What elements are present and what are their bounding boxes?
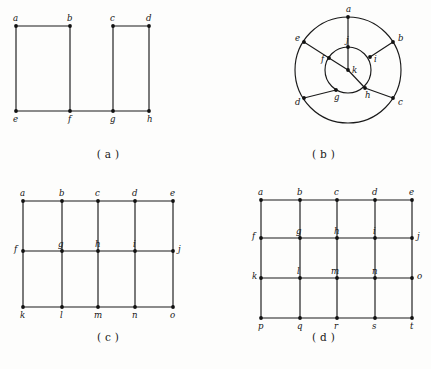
graph-d-canvas: abcdefghijklmnopqrst bbox=[216, 180, 431, 325]
vertex-o bbox=[171, 305, 175, 309]
vertex-g bbox=[60, 249, 64, 253]
vertex-label-a: a bbox=[346, 4, 351, 14]
vertex-label-c: c bbox=[95, 188, 100, 198]
vertex-label-n: n bbox=[372, 266, 378, 276]
vertex-a bbox=[259, 198, 263, 202]
graph-a-canvas: abcdefgh bbox=[0, 0, 216, 140]
vertex-f bbox=[327, 56, 331, 60]
vertex-f bbox=[68, 109, 72, 113]
vertex-q bbox=[298, 316, 302, 320]
vertex-label-p: p bbox=[258, 321, 264, 331]
vertex-h bbox=[147, 109, 151, 113]
vertex-a bbox=[14, 24, 18, 28]
vertex-label-f: f bbox=[13, 244, 19, 254]
vertex-f bbox=[21, 249, 25, 253]
vertex-n bbox=[373, 276, 377, 280]
vertex-d bbox=[147, 24, 151, 28]
vertex-b bbox=[68, 24, 72, 28]
vertex-label-e: e bbox=[170, 188, 175, 198]
vertex-label-g: g bbox=[334, 92, 340, 102]
vertex-label-m: m bbox=[331, 266, 339, 276]
vertex-g bbox=[111, 109, 115, 113]
vertex-label-c: c bbox=[110, 13, 115, 23]
vertex-d bbox=[373, 198, 377, 202]
graph-panel-b: abcdefghijk bbox=[216, 0, 431, 140]
vertex-k bbox=[21, 305, 25, 309]
vertex-a bbox=[21, 199, 25, 203]
vertex-k bbox=[346, 68, 350, 72]
edge-ef bbox=[304, 42, 329, 58]
vertex-c bbox=[96, 199, 100, 203]
vertex-label-h: h bbox=[365, 90, 371, 100]
vertex-label-t: t bbox=[410, 321, 414, 331]
vertex-g bbox=[298, 236, 302, 240]
vertex-label-b: b bbox=[398, 33, 404, 43]
caption-a: ( a ) bbox=[0, 148, 216, 160]
vertex-m bbox=[335, 276, 339, 280]
vertex-label-c: c bbox=[398, 97, 403, 107]
vertex-j bbox=[171, 249, 175, 253]
vertex-j bbox=[346, 45, 350, 49]
vertex-label-n: n bbox=[132, 310, 138, 320]
vertex-l bbox=[298, 276, 302, 280]
vertex-label-i: i bbox=[133, 239, 136, 249]
vertex-label-j: j bbox=[344, 35, 349, 45]
vertex-t bbox=[410, 316, 414, 320]
vertex-label-j: j bbox=[415, 231, 420, 241]
vertex-i bbox=[368, 55, 372, 59]
vertex-label-l: l bbox=[297, 266, 300, 276]
vertex-label-e: e bbox=[295, 33, 300, 43]
vertex-e bbox=[171, 199, 175, 203]
vertex-label-o: o bbox=[170, 310, 175, 320]
vertex-label-g: g bbox=[296, 226, 302, 236]
vertex-label-c: c bbox=[334, 187, 339, 197]
vertex-label-d: d bbox=[295, 97, 301, 107]
vertex-e bbox=[14, 109, 18, 113]
vertex-s bbox=[373, 316, 377, 320]
vertex-label-d: d bbox=[132, 188, 138, 198]
vertex-f bbox=[259, 236, 263, 240]
vertex-c bbox=[335, 198, 339, 202]
vertex-label-i: i bbox=[374, 54, 377, 64]
vertex-m bbox=[96, 305, 100, 309]
vertex-l bbox=[60, 305, 64, 309]
vertex-h bbox=[335, 236, 339, 240]
vertex-b bbox=[298, 198, 302, 202]
caption-d: ( d ) bbox=[216, 331, 431, 343]
vertex-d bbox=[302, 96, 306, 100]
vertex-label-j: j bbox=[176, 244, 181, 254]
vertex-label-k: k bbox=[352, 65, 357, 75]
figure-page: abcdefgh abcdefghijk abcdefghijklmno abc… bbox=[0, 0, 431, 369]
graph-panel-a: abcdefgh bbox=[0, 0, 216, 140]
vertex-label-b: b bbox=[67, 13, 73, 23]
vertex-k bbox=[259, 276, 263, 280]
vertex-label-h: h bbox=[334, 226, 340, 236]
vertex-e bbox=[410, 198, 414, 202]
vertex-label-b: b bbox=[59, 188, 65, 198]
caption-b: ( b ) bbox=[216, 148, 431, 160]
graph-c-canvas: abcdefghijklmno bbox=[0, 180, 216, 325]
vertex-label-h: h bbox=[147, 114, 153, 124]
vertex-label-k: k bbox=[252, 271, 257, 281]
vertex-label-f: f bbox=[67, 114, 73, 124]
vertex-label-e: e bbox=[13, 114, 18, 124]
vertex-label-q: q bbox=[297, 321, 303, 331]
vertex-label-d: d bbox=[146, 13, 152, 23]
vertex-p bbox=[259, 316, 263, 320]
vertex-i bbox=[373, 236, 377, 240]
vertex-label-a: a bbox=[13, 13, 18, 23]
vertex-label-g: g bbox=[110, 114, 116, 124]
vertex-label-a: a bbox=[258, 187, 263, 197]
vertex-label-s: s bbox=[372, 321, 377, 331]
vertex-label-a: a bbox=[20, 188, 25, 198]
vertex-d bbox=[133, 199, 137, 203]
vertex-e bbox=[302, 40, 306, 44]
edge-kf bbox=[329, 58, 348, 70]
vertex-r bbox=[335, 316, 339, 320]
vertex-n bbox=[133, 305, 137, 309]
vertex-label-r: r bbox=[334, 321, 339, 331]
vertex-j bbox=[410, 236, 414, 240]
vertex-label-k: k bbox=[20, 310, 25, 320]
caption-c: ( c ) bbox=[0, 331, 216, 343]
vertex-a bbox=[346, 15, 350, 19]
